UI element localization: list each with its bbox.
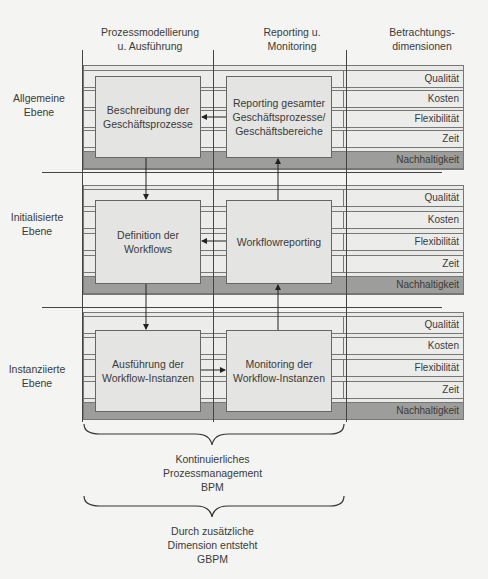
bpm-label: Kontinuierliches Prozessmanagement BPM bbox=[140, 452, 285, 494]
gbpm-label: Durch zusätzliche Dimension entsteht GBP… bbox=[140, 524, 285, 566]
